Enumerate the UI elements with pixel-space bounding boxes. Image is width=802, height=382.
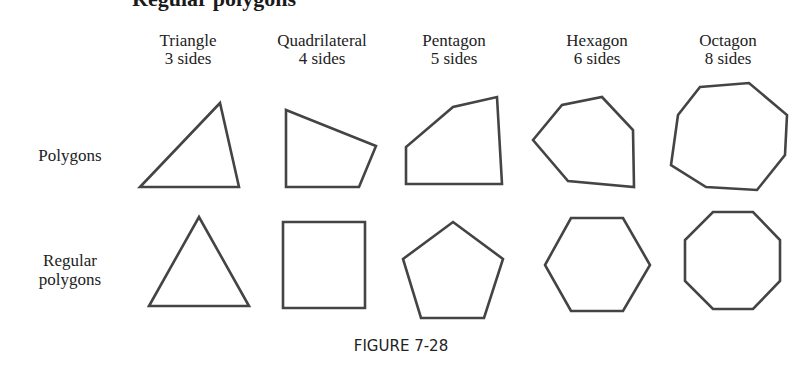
regular-square: [283, 222, 365, 308]
regular-pentagon: [403, 222, 503, 318]
irregular-octagon: [671, 83, 787, 190]
irregular-pentagon: [406, 97, 502, 184]
irregular-hexagon: [533, 97, 634, 187]
irregular-triangle: [140, 103, 239, 187]
row-regular-polygons: [149, 212, 780, 318]
figure-caption: FIGURE 7-28: [0, 337, 802, 355]
regular-triangle: [149, 217, 249, 306]
irregular-quadrilateral: [286, 110, 376, 187]
regular-hexagon: [545, 218, 650, 311]
regular-octagon: [685, 212, 780, 309]
row-polygons: [140, 83, 787, 190]
polygon-figure: [0, 0, 802, 382]
